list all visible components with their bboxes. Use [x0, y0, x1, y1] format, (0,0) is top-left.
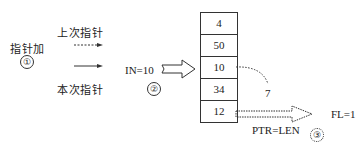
- dotted-curve-icon: [236, 67, 268, 84]
- diagram-arrows: [0, 0, 359, 151]
- stack-cell: 50: [201, 35, 237, 57]
- fl-result-label: FL=1: [331, 108, 356, 120]
- step-3-marker: ③: [310, 128, 324, 142]
- previous-pointer-arrow-icon: [74, 43, 103, 47]
- step-2-marker: ②: [147, 82, 161, 96]
- stack-cell: 10: [201, 57, 237, 79]
- ptr-len-label: PTR=LEN: [252, 124, 300, 136]
- stack-cell: 12: [201, 101, 237, 122]
- data-stack: 4 50 10 34 12: [200, 12, 238, 123]
- in-value-label: IN=10: [125, 64, 154, 76]
- curve-value-label: 7: [265, 87, 271, 99]
- stack-cell: 34: [201, 79, 237, 101]
- input-hollow-arrow-icon: [162, 60, 195, 78]
- stack-cell: 4: [201, 13, 237, 35]
- output-hollow-arrow-icon: [236, 106, 312, 122]
- current-pointer-arrow-icon: [74, 64, 103, 68]
